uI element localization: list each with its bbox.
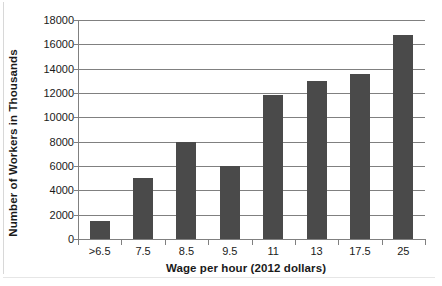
x-axis-tick-label: 9.5: [222, 245, 237, 257]
x-axis-title: Wage per hour (2012 dollars): [60, 262, 432, 274]
y-axis-tick-label: 2000: [30, 209, 74, 221]
x-axis-tick-label: 7.5: [135, 245, 150, 257]
x-axis-tick-label: 13: [310, 245, 322, 257]
y-axis-tick-label: 4000: [30, 184, 74, 196]
bar: [176, 142, 196, 239]
bar: [350, 74, 370, 239]
x-axis-tick-label: 8.5: [179, 245, 194, 257]
bar: [133, 178, 153, 239]
y-axis-title: Number of Workers in Thousands: [0, 0, 26, 286]
y-axis-tick-label: 0: [30, 233, 74, 245]
y-axis-tick-label: 14000: [30, 63, 74, 75]
x-axis-tick-labels: >6.57.58.59.5111317.525: [78, 245, 426, 261]
bar: [307, 81, 327, 239]
x-axis-tick-label: 25: [397, 245, 409, 257]
figure-border-bottom: [3, 277, 435, 278]
x-axis-tick-label: 17.5: [349, 245, 370, 257]
bar: [393, 35, 413, 239]
bars-group: [78, 20, 425, 239]
bar: [263, 95, 283, 239]
x-axis-tick-label: >6.5: [89, 245, 111, 257]
y-axis-tick-label: 12000: [30, 87, 74, 99]
bar-chart-figure: Number of Workers in Thousands 020004000…: [0, 0, 442, 286]
y-axis-tick-label: 10000: [30, 111, 74, 123]
plot-area: [78, 20, 425, 239]
y-axis-tick-label: 6000: [30, 160, 74, 172]
x-axis-tick-label: 11: [267, 245, 278, 257]
bar: [220, 166, 240, 239]
y-axis-tick-label: 18000: [30, 14, 74, 26]
y-axis-tick-label: 16000: [30, 38, 74, 50]
y-axis-tick-labels: 0200040006000800010000120001400016000180…: [26, 20, 74, 239]
y-axis-tick-label: 8000: [30, 136, 74, 148]
bar: [90, 221, 110, 239]
